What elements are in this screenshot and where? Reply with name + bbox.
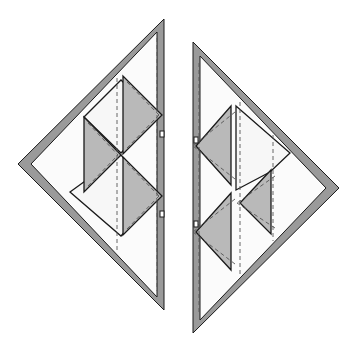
notch-mark xyxy=(160,211,164,217)
diagram-canvas xyxy=(0,0,356,351)
notch-mark xyxy=(160,131,164,137)
notch-mark xyxy=(194,221,198,227)
left-half xyxy=(18,19,164,310)
quilt-diagram xyxy=(0,0,356,351)
right-half xyxy=(193,42,339,333)
notch-mark xyxy=(194,137,198,143)
